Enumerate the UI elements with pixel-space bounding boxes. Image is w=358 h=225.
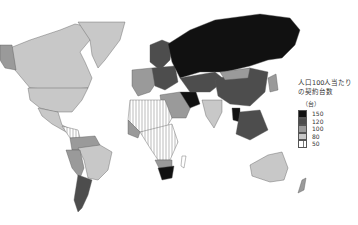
legend-unit: （台） (302, 99, 358, 108)
legend-title-line1: 人口100人当たり (298, 79, 358, 88)
legend-item-100: 100 (298, 125, 358, 133)
legend-item-120: 120 (298, 118, 358, 126)
legend-swatch-120 (298, 118, 307, 126)
legend-swatch-50 (298, 140, 307, 148)
legend-label-50: 50 (312, 140, 320, 147)
region-india (202, 100, 222, 128)
region-brazil (78, 145, 112, 180)
legend-swatch-100 (298, 125, 307, 133)
region-canada (10, 24, 95, 90)
legend-swatch-150 (298, 110, 307, 118)
legend-swatch-80 (298, 133, 307, 141)
legend-label-100: 100 (312, 125, 323, 132)
legend-title-line2: の契約台数 (298, 88, 358, 97)
region-russia (168, 14, 300, 78)
region-usa (28, 88, 88, 112)
legend-item-150: 150 (298, 110, 358, 118)
region-argentina (74, 175, 92, 212)
legend-label-80: 80 (312, 133, 320, 140)
legend-label-150: 150 (312, 110, 323, 117)
region-new-zealand (298, 178, 306, 193)
region-japan-korea (268, 74, 278, 92)
region-southeast-asia (236, 110, 268, 140)
region-eastern-europe (152, 66, 178, 90)
map-legend: 人口100人当たり の契約台数 （台） 150 120 100 80 50 (298, 79, 358, 148)
region-south-africa (158, 166, 174, 180)
region-australia (250, 152, 288, 182)
region-madagascar (181, 156, 186, 168)
legend-item-50: 50 (298, 140, 358, 148)
legend-label-120: 120 (312, 118, 323, 125)
legend-item-80: 80 (298, 133, 358, 141)
region-central-america (62, 126, 80, 138)
